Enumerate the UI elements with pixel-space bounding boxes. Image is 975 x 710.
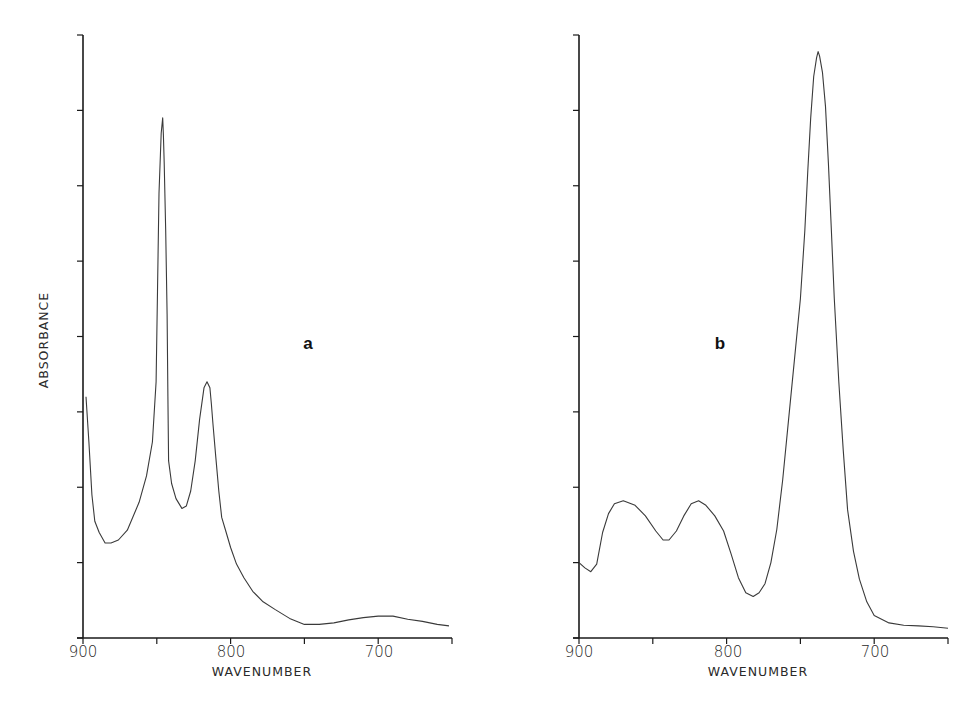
- panel-a-x-tick-900: 900: [69, 643, 98, 661]
- panel-b-label: b: [715, 334, 725, 353]
- panel-b-curve: [579, 52, 948, 629]
- panel-b-x-tick-700: 700: [861, 643, 890, 661]
- panel-a-axes: [77, 35, 452, 644]
- panel-b-x-tick-800: 800: [714, 643, 743, 661]
- panel-b-axes: [573, 35, 948, 644]
- panel-b-x-axis-label: WAVENUMBER: [708, 664, 808, 679]
- panel-a-label: a: [303, 334, 313, 353]
- y-axis-label: ABSORBANCE: [36, 292, 51, 388]
- panel-b: 900 800 700 WAVENUMBER b: [565, 35, 948, 679]
- spectra-figure: ABSORBANCE 900 800 700 WAVENUMBER a 900 …: [0, 0, 975, 710]
- panel-a-x-tick-800: 800: [217, 643, 246, 661]
- panel-a-x-tick-700: 700: [365, 643, 394, 661]
- panel-a-curve: [86, 118, 449, 626]
- panel-b-x-tick-900: 900: [565, 643, 594, 661]
- panel-a-x-axis-label: WAVENUMBER: [212, 664, 312, 679]
- panel-a: 900 800 700 WAVENUMBER a: [69, 35, 452, 679]
